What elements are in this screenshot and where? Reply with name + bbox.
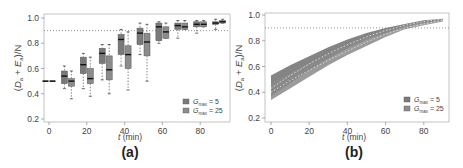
x-tick-label: 80	[419, 126, 429, 136]
box	[137, 28, 143, 44]
y-axis-b: 0.20.40.60.81.0	[248, 10, 265, 123]
box	[144, 33, 150, 56]
panel-label-a: (a)	[121, 144, 138, 160]
x-tick-label: 80	[195, 126, 205, 136]
y-tick-label: 0.2	[27, 114, 39, 124]
figure: 0.20.40.60.81.0 020406080 (Da + Ea)/N t …	[0, 0, 463, 168]
svg-text:Gmax = 5: Gmax = 5	[193, 98, 219, 107]
y-tick-label: 0.8	[27, 38, 39, 48]
legend-b: Gmax = 5 Gmax = 25	[404, 96, 444, 114]
ribbons-b	[271, 19, 443, 100]
legend-a: Gmax = 5 Gmax = 25	[183, 98, 223, 116]
x-tick-label: 20	[82, 126, 92, 136]
x-tick-label: 20	[304, 126, 314, 136]
panel-b: 0.20.40.60.81.0 020406080 (Da + Ea)/N t …	[233, 10, 449, 160]
x-tick-label: 60	[381, 126, 391, 136]
y-axis-label-b: (Da + Ea)/N	[233, 45, 245, 92]
panel-label-b: (b)	[345, 144, 363, 160]
x-tick-label: 0	[47, 126, 52, 136]
y-tick-label: 0.4	[248, 87, 260, 97]
y-axis-label-a: (Da + Ea)/N	[12, 45, 24, 92]
svg-text:Gmax = 25: Gmax = 25	[193, 107, 223, 116]
y-tick-label: 0.6	[27, 64, 39, 74]
ribbon	[271, 19, 443, 96]
box	[156, 23, 162, 41]
ribbon	[271, 19, 443, 100]
x-tick-label: 60	[158, 126, 168, 136]
panel-a: 0.20.40.60.81.0 020406080 (Da + Ea)/N t …	[12, 13, 230, 160]
box	[99, 48, 105, 63]
boxplots-a	[43, 19, 226, 99]
box	[61, 71, 67, 84]
svg-text:Gmax = 5: Gmax = 5	[414, 96, 440, 105]
box	[87, 69, 93, 84]
box	[125, 46, 131, 69]
y-tick-label: 1.0	[248, 10, 260, 20]
y-tick-label: 0.2	[248, 113, 260, 123]
x-tick-label: 0	[269, 126, 274, 136]
box	[68, 79, 74, 87]
y-tick-label: 0.6	[248, 62, 260, 72]
y-tick-label: 0.8	[248, 36, 260, 46]
y-axis-a: 0.20.40.60.81.0	[27, 13, 44, 124]
box	[106, 56, 112, 80]
y-tick-label: 0.4	[27, 89, 39, 99]
x-axis-label-a: t (min)	[118, 132, 142, 142]
box	[118, 34, 124, 54]
svg-text:Gmax = 25: Gmax = 25	[414, 105, 444, 114]
y-tick-label: 1.0	[27, 13, 39, 23]
x-axis-label-b: t (min)	[342, 132, 366, 142]
